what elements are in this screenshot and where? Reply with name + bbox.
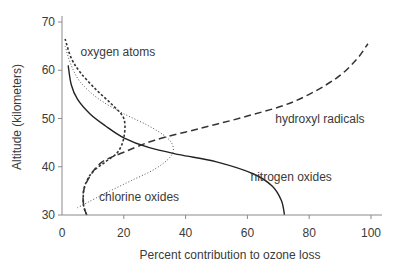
- x-tick-label: 60: [241, 226, 255, 240]
- series-label-nitrogen-oxides: nitrogen oxides: [250, 170, 331, 184]
- x-tick-label: 0: [59, 226, 66, 240]
- series-label-chlorine-oxides: chlorine oxides: [99, 190, 179, 204]
- x-tick-label: 80: [303, 226, 317, 240]
- ozone-loss-chart: 0204060801003040506070 nitrogen oxideshy…: [0, 0, 401, 270]
- x-tick-label: 100: [361, 226, 381, 240]
- y-tick-label: 60: [42, 63, 56, 77]
- y-tick-label: 50: [42, 112, 56, 126]
- series-label-hydroxyl-radicals: hydroxyl radicals: [275, 112, 364, 126]
- x-tick-label: 20: [117, 226, 131, 240]
- series-labels: nitrogen oxideshydroxyl radicalsoxygen a…: [81, 45, 365, 204]
- series-line-chlorine-oxides: [65, 46, 173, 208]
- x-tick-label: 40: [179, 226, 193, 240]
- y-axis-title: Altitude (kilometers): [10, 64, 24, 170]
- y-tick-label: 40: [42, 160, 56, 174]
- x-axis-title: Percent contribution to ozone loss: [140, 248, 321, 262]
- y-tick-label: 70: [42, 15, 56, 29]
- y-tick-label: 30: [42, 208, 56, 222]
- series-label-oxygen-atoms: oxygen atoms: [81, 45, 156, 59]
